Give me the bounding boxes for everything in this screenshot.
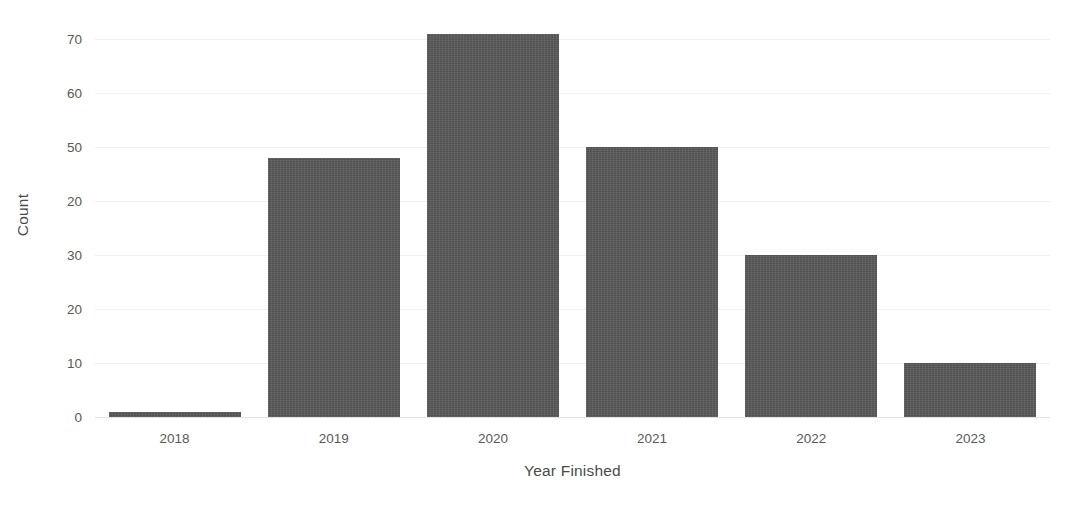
y-axis-tick-label: 0	[74, 410, 82, 425]
bar-slot	[95, 25, 254, 417]
x-axis-tick-label: 2018	[95, 431, 254, 446]
bar-slot	[413, 25, 572, 417]
bar-chart: Count 706050203020100 201820192020202120…	[0, 0, 1069, 522]
y-axis-tick-labels: 706050203020100	[46, 0, 88, 430]
bar[interactable]	[268, 158, 400, 417]
plot-area	[95, 25, 1050, 417]
bar[interactable]	[109, 412, 241, 417]
y-axis-tick-label: 20	[67, 194, 82, 209]
x-axis-tick-label: 2019	[254, 431, 413, 446]
x-axis-tick-label: 2022	[732, 431, 891, 446]
bar[interactable]	[904, 363, 1036, 417]
bar[interactable]	[586, 147, 718, 417]
y-axis-tick-label: 70	[67, 32, 82, 47]
x-axis-tick-label: 2023	[891, 431, 1050, 446]
y-axis-tick-label: 10	[67, 356, 82, 371]
bar-slot	[254, 25, 413, 417]
bar-slot	[732, 25, 891, 417]
y-axis-tick-label: 20	[67, 302, 82, 317]
x-axis-tick-labels: 201820192020202120222023	[95, 425, 1050, 459]
y-axis-title: Count	[0, 0, 46, 430]
x-axis-title: Year Finished	[95, 462, 1050, 480]
bar-series	[95, 25, 1050, 417]
bar-slot	[573, 25, 732, 417]
bar-slot	[891, 25, 1050, 417]
y-axis-tick-label: 50	[67, 140, 82, 155]
y-axis-tick-label: 60	[67, 86, 82, 101]
bar[interactable]	[427, 34, 559, 417]
x-axis-tick-label: 2021	[573, 431, 732, 446]
y-axis-tick-label: 30	[67, 248, 82, 263]
x-axis-title-label: Year Finished	[524, 462, 621, 479]
y-axis-title-label: Count	[14, 194, 32, 236]
bar[interactable]	[745, 255, 877, 417]
axis-baseline	[95, 417, 1050, 418]
x-axis-tick-label: 2020	[413, 431, 572, 446]
